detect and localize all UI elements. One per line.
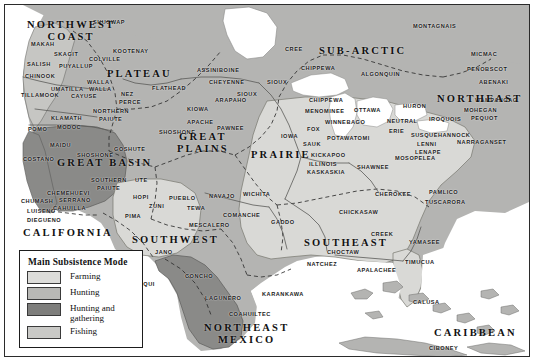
legend-label-farming: Farming [70, 271, 101, 282]
legend-swatch-hunting [27, 287, 61, 300]
legend-item-hunting: Hunting [27, 287, 135, 300]
legend-item-fishing: Fishing [27, 326, 135, 339]
legend-label-hunting-and-gathering: Hunting and gathering [70, 303, 135, 323]
map-screenshot: SHUSWAPMAKAHSKAGITCOLVILLEKOOTENAYSALISH… [0, 0, 536, 363]
legend-title: Main Subsistence Mode [28, 257, 135, 267]
region-farming-southwest [113, 179, 201, 257]
legend: Main Subsistence Mode Farming Hunting Hu… [19, 250, 143, 348]
legend-swatch-fishing [27, 326, 61, 339]
legend-swatch-farming [27, 271, 61, 284]
legend-item-farming: Farming [27, 271, 135, 284]
legend-label-fishing: Fishing [70, 326, 97, 337]
legend-label-hunting: Hunting [70, 287, 100, 298]
map-frame: SHUSWAPMAKAHSKAGITCOLVILLEKOOTENAYSALISH… [4, 4, 530, 357]
legend-item-hunting-and-gathering: Hunting and gathering [27, 303, 135, 323]
legend-swatch-hunting-and-gathering [27, 303, 61, 316]
